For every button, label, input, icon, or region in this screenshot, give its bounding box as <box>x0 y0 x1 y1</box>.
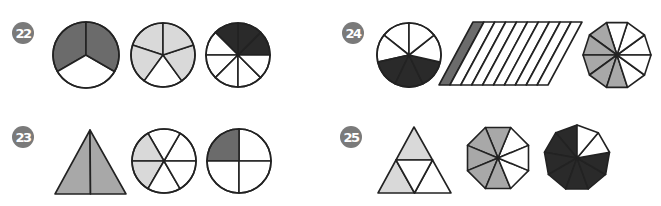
triangle-quarter-top <box>396 127 433 160</box>
fraction-figures <box>0 0 661 206</box>
triangle-half-left <box>55 130 91 194</box>
triangle-half-right <box>90 130 126 194</box>
